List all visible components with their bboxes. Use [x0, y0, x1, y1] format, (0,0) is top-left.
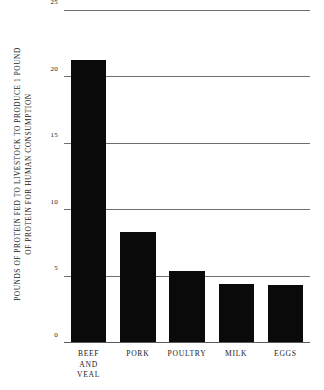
bar: [120, 232, 155, 342]
y-axis-tick-label: 0: [54, 331, 58, 339]
y-axis-tick-label: 25: [50, 0, 58, 6]
x-axis-category-label: EGGS: [261, 349, 310, 381]
x-axis-line: [64, 342, 310, 343]
y-axis-title-text: POUNDS OF PROTEIN FED TO LIVESTOCK TO PR…: [12, 9, 34, 339]
y-axis-title: POUNDS OF PROTEIN FED TO LIVESTOCK TO PR…: [0, 0, 46, 348]
bar: [71, 60, 106, 342]
y-axis-tick-label: 5: [54, 264, 58, 272]
bar-chart: POUNDS OF PROTEIN FED TO LIVESTOCK TO PR…: [0, 0, 324, 390]
y-axis-title-line-1: POUNDS OF PROTEIN FED TO LIVESTOCK TO PR…: [12, 9, 23, 339]
y-axis-tick-label: 15: [50, 131, 58, 139]
y-axis-tick-label: 20: [50, 65, 58, 73]
bar-slot: [162, 11, 211, 342]
y-axis-tick-label: 10: [50, 198, 58, 206]
x-axis-category-label-line: BEEF: [64, 349, 113, 360]
x-axis-category-label-line: POULTRY: [162, 349, 211, 360]
bar-series: [64, 11, 310, 342]
bar: [219, 284, 254, 342]
x-axis-category-label: POULTRY: [162, 349, 211, 381]
plot-area: 0510152025: [64, 11, 310, 343]
x-axis-category-label: PORK: [113, 349, 162, 381]
x-axis-category-label-line: MILK: [212, 349, 261, 360]
x-axis-category-label: BEEFANDVEAL: [64, 349, 113, 381]
x-axis-category-label-line: AND: [64, 360, 113, 371]
x-axis-category-label-line: EGGS: [261, 349, 310, 360]
bar: [169, 271, 204, 342]
bar-slot: [261, 11, 310, 342]
bar-slot: [113, 11, 162, 342]
bar-slot: [64, 11, 113, 342]
bar: [268, 285, 303, 342]
x-axis-category-label: MILK: [212, 349, 261, 381]
x-axis-category-label-line: VEAL: [64, 370, 113, 381]
x-axis-category-labels: BEEFANDVEALPORKPOULTRYMILKEGGS: [64, 349, 310, 381]
bar-slot: [212, 11, 261, 342]
x-axis-category-label-line: PORK: [113, 349, 162, 360]
y-axis-title-line-2: OF PROTEIN FOR HUMAN CONSUMPTION: [23, 9, 34, 339]
